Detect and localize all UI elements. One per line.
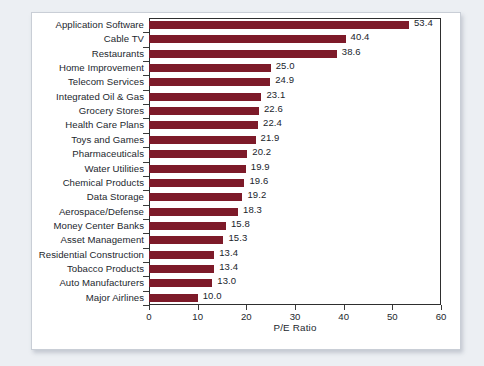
x-axis-tick [198, 305, 199, 310]
bar-value-label: 22.6 [264, 103, 283, 114]
y-axis-tick [143, 262, 149, 263]
y-axis-tick [143, 47, 149, 48]
bar-row: 19.2 [149, 190, 441, 204]
category-label: Chemical Products [0, 177, 144, 188]
x-axis-tick [149, 305, 150, 310]
category-label: Water Utilities [0, 163, 144, 174]
bar [149, 265, 214, 273]
bar [149, 208, 238, 216]
category-label: Integrated Oil & Gas [0, 91, 144, 102]
y-axis-tick [143, 75, 149, 76]
bar-row: 13.4 [149, 248, 441, 262]
category-label: Aerospace/Defense [0, 206, 144, 217]
x-axis-tick [344, 305, 345, 310]
x-axis-tick-label: 30 [290, 311, 301, 322]
x-axis-tick [246, 305, 247, 310]
bar-chart: Application SoftwareCable TVRestaurantsH… [0, 0, 484, 366]
category-label: Cable TV [0, 33, 144, 44]
bar [149, 107, 259, 115]
x-axis-tick-label: 50 [387, 311, 398, 322]
bar-value-label: 40.4 [351, 31, 370, 42]
y-axis-tick [143, 233, 149, 234]
x-axis-tick [295, 305, 296, 310]
bar-value-label: 24.9 [275, 74, 294, 85]
y-axis-tick [143, 190, 149, 191]
bar-row: 22.4 [149, 118, 441, 132]
category-axis-labels: Application SoftwareCable TVRestaurantsH… [0, 18, 144, 305]
y-axis-tick [143, 118, 149, 119]
y-axis-tick [143, 291, 149, 292]
bar [149, 21, 409, 29]
bar-row: 18.3 [149, 205, 441, 219]
category-label: Auto Manufacturers [0, 277, 144, 288]
bar-value-label: 25.0 [276, 60, 295, 71]
bar-row: 19.9 [149, 162, 441, 176]
y-axis-tick [143, 147, 149, 148]
bar-value-label: 38.6 [342, 46, 361, 57]
bar-series: 53.440.438.625.024.923.122.622.421.920.2… [149, 18, 441, 305]
category-label: Money Center Banks [0, 220, 144, 231]
bar-row: 38.6 [149, 47, 441, 61]
bar-row: 19.6 [149, 176, 441, 190]
bar-value-label: 18.3 [243, 204, 262, 215]
x-axis-tick-label: 0 [146, 311, 151, 322]
y-axis-tick [143, 104, 149, 105]
x-axis-tick-label: 40 [338, 311, 349, 322]
x-axis-tick [392, 305, 393, 310]
bar-value-label: 19.2 [247, 189, 266, 200]
bar [149, 222, 226, 230]
y-axis-tick [143, 248, 149, 249]
y-axis-tick [143, 305, 149, 306]
y-axis-tick [143, 133, 149, 134]
category-label: Grocery Stores [0, 105, 144, 116]
bar-row: 40.4 [149, 32, 441, 46]
category-label: Health Care Plans [0, 119, 144, 130]
bar-value-label: 13.0 [217, 275, 236, 286]
bar-value-label: 19.6 [249, 175, 268, 186]
x-axis-title: P/E Ratio [149, 322, 441, 333]
y-axis-tick [143, 90, 149, 91]
bar-row: 13.0 [149, 276, 441, 290]
x-axis-tick-label: 60 [436, 311, 447, 322]
category-label: Data Storage [0, 191, 144, 202]
bar-row: 21.9 [149, 133, 441, 147]
bar [149, 236, 223, 244]
category-label: Application Software [0, 19, 144, 30]
bar [149, 251, 214, 259]
category-label: Toys and Games [0, 134, 144, 145]
category-label: Telecom Services [0, 76, 144, 87]
category-label: Pharmaceuticals [0, 148, 144, 159]
bar-value-label: 19.9 [251, 161, 270, 172]
bar-row: 53.4 [149, 18, 441, 32]
category-label: Home Improvement [0, 62, 144, 73]
chart-screenshot: Application SoftwareCable TVRestaurantsH… [0, 0, 484, 366]
bar [149, 64, 271, 72]
bar-row: 24.9 [149, 75, 441, 89]
bar-value-label: 22.4 [263, 117, 282, 128]
y-axis-tick [143, 219, 149, 220]
bar [149, 294, 198, 302]
bar-row: 22.6 [149, 104, 441, 118]
bar [149, 193, 242, 201]
y-axis-tick [143, 32, 149, 33]
x-axis-tick-label: 10 [192, 311, 203, 322]
bar [149, 279, 212, 287]
bar-value-label: 13.4 [219, 261, 238, 272]
bar [149, 150, 247, 158]
bar-value-label: 20.2 [252, 146, 271, 157]
bar-value-label: 23.1 [266, 89, 285, 100]
bar-value-label: 13.4 [219, 247, 238, 258]
bar-row: 15.3 [149, 233, 441, 247]
bar-value-label: 15.8 [231, 218, 250, 229]
category-label: Major Airlines [0, 292, 144, 303]
bar-row: 23.1 [149, 90, 441, 104]
y-axis-tick [143, 176, 149, 177]
bar-row: 10.0 [149, 291, 441, 305]
category-label: Residential Construction [0, 249, 144, 260]
category-label: Tobacco Products [0, 263, 144, 274]
bar-value-label: 15.3 [228, 232, 247, 243]
bar [149, 50, 337, 58]
bar [149, 78, 270, 86]
bar-value-label: 53.4 [414, 17, 433, 28]
bar-row: 25.0 [149, 61, 441, 75]
